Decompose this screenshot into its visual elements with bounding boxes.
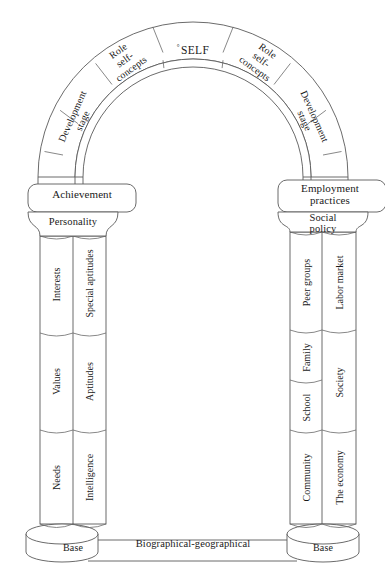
right-pillar [278, 177, 385, 562]
left-pillar-base-label: Base [40, 543, 106, 554]
capital-line-2: practices [278, 195, 382, 207]
right-pillar-subcapital-label: Social policy [290, 212, 356, 235]
keystone-text: SELF [181, 44, 209, 56]
right-block-the-economy: The economy [334, 445, 345, 511]
subcapital-line-1: Social [290, 212, 356, 223]
left-block-values: Values [51, 349, 62, 415]
arch-keystone-label: °SELF [160, 44, 226, 56]
left-block-aptitudes: Aptitudes [84, 349, 95, 415]
right-block-labor-market: Labor market [334, 250, 345, 316]
right-block-society: Society [334, 350, 345, 416]
left-block-needs: Needs [51, 445, 62, 511]
subcapital-line-2: policy [290, 223, 356, 234]
right-pillar-base-label: Base [290, 543, 356, 554]
archway-diagram: °SELF Role self- concepts Role self- con… [0, 0, 385, 573]
keystone-marker: ° [177, 43, 180, 51]
left-pillar-subcapital-label: Personality [40, 216, 106, 227]
left-block-interests: Interests [51, 252, 62, 318]
right-block-peer-groups: Peer groups [301, 250, 312, 316]
left-block-intelligence: Intelligence [84, 445, 95, 511]
left-pillar-capital-label: Achievement [28, 189, 136, 201]
right-block-community: Community [301, 445, 312, 511]
left-pillar [26, 177, 136, 562]
left-block-special-aptitudes: Special aptitudes [84, 252, 95, 318]
footer-span-label: Biographical-geographical [118, 538, 268, 549]
right-pillar-capital-label: Employment practices [278, 183, 382, 207]
right-block-school: School [301, 375, 312, 441]
